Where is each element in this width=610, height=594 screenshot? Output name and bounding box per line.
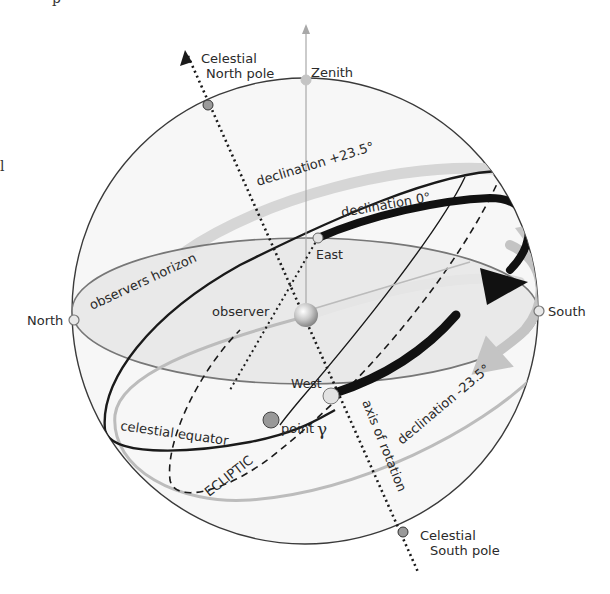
- zenith-label: Zenith: [311, 65, 353, 80]
- east-label: East: [316, 247, 343, 262]
- observer-sphere: [294, 303, 318, 327]
- point-label: point: [281, 421, 314, 436]
- north-marker: [69, 315, 79, 325]
- celestial-south-pole-label-2: South pole: [430, 543, 500, 558]
- left-text-fragment: l: [0, 158, 4, 174]
- celestial-north-pole-label-2: North pole: [206, 66, 274, 81]
- celestial-south-pole-marker: [398, 527, 408, 537]
- zenith-arrowhead: [302, 24, 310, 34]
- west-label: West: [291, 376, 322, 391]
- observer-label: observer: [212, 304, 270, 319]
- west-marker: [323, 388, 339, 404]
- celestial-north-pole-marker: [203, 100, 213, 110]
- east-marker: [313, 233, 323, 243]
- north-label: North: [27, 313, 63, 328]
- north-pole-arrowhead: [180, 50, 192, 66]
- top-text-fragment: p: [52, 0, 61, 6]
- gamma-symbol: γ: [317, 419, 327, 439]
- celestial-south-pole-label-1: Celestial: [420, 528, 476, 543]
- south-label: South: [548, 304, 586, 319]
- celestial-north-pole-label-1: Celestial: [201, 51, 257, 66]
- point-gamma-marker: [263, 412, 279, 428]
- south-marker: [534, 306, 544, 316]
- zenith-marker: [301, 75, 311, 85]
- celestial-sphere-diagram: Celestial North pole Zenith declination …: [0, 0, 610, 594]
